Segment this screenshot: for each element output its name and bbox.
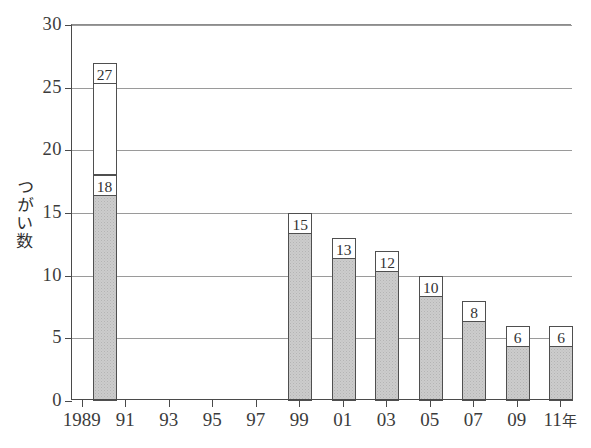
y-tick-label-0: 0	[16, 390, 62, 411]
x-tick-1991	[125, 399, 126, 407]
x-axis-unit-label: 年	[562, 412, 577, 430]
bar-value-label-2003: 12	[375, 251, 399, 272]
gridline-25	[72, 88, 572, 89]
y-tick-30	[65, 25, 72, 26]
gridline-10	[72, 276, 572, 277]
x-axis-line	[71, 399, 572, 400]
y-tick-label-30: 30	[16, 14, 62, 35]
x-tick-1993	[169, 399, 170, 407]
gridline-20	[72, 150, 572, 151]
chart-figure: つがい数 051015202530 271815131210866 198991…	[0, 0, 591, 448]
bar-value-label-1990-total: 27	[93, 63, 117, 84]
y-tick-10	[65, 276, 72, 277]
bar-value-label-2011: 6	[549, 326, 573, 347]
x-tick-1999	[299, 399, 300, 407]
y-tick-20	[65, 150, 72, 151]
bar-value-label-2001: 13	[332, 238, 356, 259]
plot-area: 271815131210866	[71, 24, 571, 400]
x-tick-1989	[82, 399, 83, 407]
bar-value-label-1999: 15	[288, 213, 312, 234]
x-tick-2011	[560, 399, 561, 407]
x-tick-label-2011: 11年	[524, 409, 591, 431]
bar-value-label-2007: 8	[462, 301, 486, 322]
y-tick-25	[65, 88, 72, 89]
x-tick-2009	[517, 399, 518, 407]
x-tick-1997	[256, 399, 257, 407]
x-tick-2005	[430, 399, 431, 407]
gridline-5	[72, 338, 572, 339]
x-tick-2003	[386, 399, 387, 407]
bar-2001	[332, 238, 356, 401]
y-tick-5	[65, 338, 72, 339]
bar-1999	[288, 213, 312, 401]
bar-2003	[375, 251, 399, 401]
y-tick-label-5: 5	[16, 327, 62, 348]
y-tick-0	[65, 401, 72, 402]
x-tick-2007	[473, 399, 474, 407]
y-tick-15	[65, 213, 72, 214]
bar-value-label-2005: 10	[419, 276, 443, 297]
bar-value-label-1990: 18	[93, 175, 117, 196]
y-tick-label-20: 20	[16, 139, 62, 160]
y-tick-label-10: 10	[16, 264, 62, 285]
bar-value-label-2009: 6	[506, 326, 530, 347]
gridline-30	[72, 25, 572, 26]
x-tick-1995	[212, 399, 213, 407]
gridline-15	[72, 213, 572, 214]
y-tick-label-15: 15	[16, 202, 62, 223]
bar-1990	[93, 175, 117, 401]
x-tick-2001	[343, 399, 344, 407]
y-tick-label-25: 25	[16, 76, 62, 97]
